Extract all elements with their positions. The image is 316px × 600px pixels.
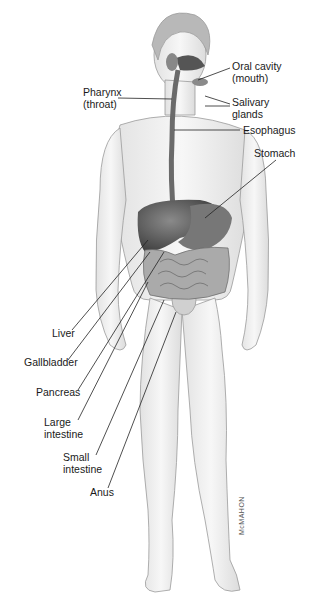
label-pharynx: Pharynx (throat) bbox=[83, 86, 122, 110]
label-liver: Liver bbox=[52, 327, 75, 339]
label-oral-cavity: Oral cavity (mouth) bbox=[232, 60, 282, 84]
label-pancreas: Pancreas bbox=[36, 386, 80, 398]
label-gallbladder: Gallbladder bbox=[24, 356, 78, 368]
label-anus: Anus bbox=[90, 486, 114, 498]
intestines-organ bbox=[143, 247, 229, 299]
digestive-system-illustration bbox=[0, 0, 316, 600]
label-small-intestine: Small intestine bbox=[63, 451, 102, 475]
artist-signature: McMAHON bbox=[238, 496, 245, 535]
label-salivary-glands: Salivary glands bbox=[232, 96, 269, 120]
label-esophagus: Esophagus bbox=[243, 124, 296, 136]
label-stomach: Stomach bbox=[254, 147, 295, 159]
label-large-intestine: Large intestine bbox=[44, 416, 83, 440]
